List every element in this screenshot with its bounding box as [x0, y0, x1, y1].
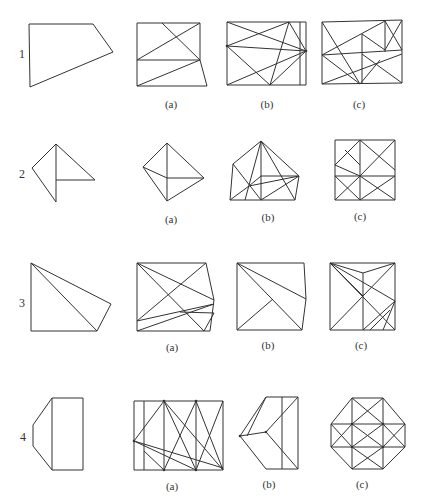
panel-row1-input: [29, 24, 113, 87]
caption-row3-a: (a): [166, 342, 178, 353]
caption-row2-c: (c): [354, 211, 366, 222]
panel-row2-input: [32, 144, 95, 202]
vertex-dot: [133, 440, 136, 443]
panel-row4-b: [239, 397, 298, 469]
vertex-dot: [195, 400, 198, 403]
polygon-outline: [143, 143, 204, 201]
polygon-outline: [29, 24, 113, 87]
panel-row3-a: [137, 263, 214, 331]
panel-row3-input: [31, 263, 111, 331]
triangulation-edge: [237, 263, 302, 330]
polygon-outline: [33, 398, 83, 470]
polygon-outline: [137, 263, 214, 331]
row-label-3: 3: [19, 297, 25, 309]
row-label-2: 2: [19, 168, 25, 180]
vertex-dot: [226, 45, 229, 48]
vertex-dot: [305, 50, 308, 53]
vertex-dot: [195, 469, 198, 472]
triangulation-edge: [137, 60, 200, 86]
vertex-dot: [351, 423, 354, 426]
triangulation-edge: [289, 22, 306, 51]
triangulation-edge: [245, 141, 261, 200]
caption-row1-b: (b): [261, 99, 274, 110]
vertex-dot: [265, 431, 268, 434]
triangulation-edge: [237, 263, 306, 299]
figure-canvas: [0, 0, 422, 503]
panel-row2-a: [143, 143, 204, 201]
triangulation-figure: 1(a)(b)(c)2(a)(b)(c)3(a)(b)(c)4(a)(b)(c): [0, 0, 422, 503]
triangulation-edge: [360, 140, 395, 176]
caption-row2-b: (b): [262, 212, 275, 223]
caption-row2-a: (a): [165, 214, 177, 225]
triangulation-edge: [230, 186, 249, 200]
triangulation-edge: [237, 299, 273, 330]
panel-row2-b: [230, 141, 299, 200]
caption-row4-c: (c): [356, 479, 368, 490]
panel-row1-a: [137, 23, 207, 86]
triangulation-edge: [335, 165, 360, 176]
vertex-dot: [382, 423, 385, 426]
polygon-outline: [31, 263, 111, 331]
polygon-outline: [32, 144, 95, 202]
triangulation-edge: [322, 55, 360, 84]
triangulation-edge: [362, 54, 402, 83]
vertex-dot: [382, 446, 385, 449]
triangulation-edge: [137, 263, 214, 300]
triangulation-edge: [360, 140, 395, 170]
triangulation-edge: [261, 141, 295, 200]
triangulation-edge: [137, 23, 200, 60]
caption-row1-a: (a): [165, 99, 177, 110]
triangulation-edge: [240, 432, 266, 436]
row-label-1: 1: [19, 48, 25, 60]
triangulation-edge: [362, 34, 385, 50]
triangulation-edge: [180, 312, 214, 313]
caption-row3-c: (c): [355, 340, 367, 351]
vertex-dot: [239, 435, 242, 438]
triangulation-edge: [204, 313, 214, 331]
caption-row4-a: (a): [166, 481, 178, 492]
caption-row4-b: (b): [263, 479, 276, 490]
triangulation-edge: [247, 397, 266, 436]
triangulation-edge: [31, 263, 97, 331]
panel-row1-c: [322, 20, 402, 84]
vertex-dot: [163, 469, 166, 472]
row-label-4: 4: [20, 431, 26, 443]
caption-row1-c: (c): [353, 99, 365, 110]
vertex-dot: [163, 400, 166, 403]
vertex-dot: [351, 446, 354, 449]
panel-row3-c: [330, 263, 395, 330]
triangulation-edge: [345, 150, 360, 165]
triangulation-edge: [360, 60, 380, 84]
panel-row1-b: [226, 22, 308, 85]
triangulation-edge: [134, 441, 196, 470]
triangulation-edge: [137, 304, 214, 331]
panel-row3-b: [237, 263, 306, 330]
panel-row4-input: [33, 398, 83, 470]
panel-row4-a: [133, 400, 223, 472]
caption-row3-b: (b): [262, 340, 275, 351]
triangulation-edge: [227, 46, 270, 85]
triangulation-edge: [134, 401, 164, 441]
polygon-outline: [230, 141, 299, 200]
panel-row2-c: [335, 140, 395, 200]
panel-row4-c: [331, 398, 405, 469]
